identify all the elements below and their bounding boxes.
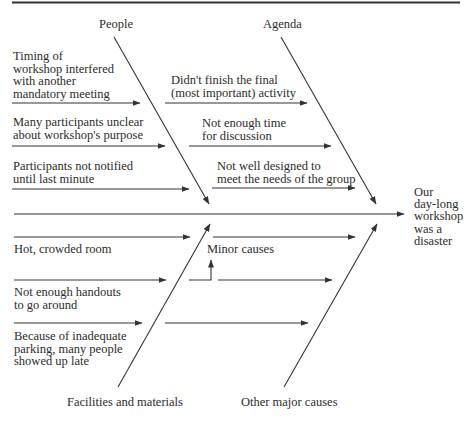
- people-cause-2: Many participants unclear about workshop…: [13, 116, 144, 141]
- category-label-facilities: Facilities and materials: [67, 396, 183, 409]
- category-label-other: Other major causes: [241, 396, 338, 409]
- other-causes-bone: [284, 224, 377, 387]
- facilities-cause-2: Not enough handouts to go around: [14, 286, 121, 311]
- facilities-bone: [118, 224, 210, 387]
- agenda-cause-2: Not enough time for discussion: [202, 117, 286, 142]
- minor-causes-pointer: [189, 260, 211, 280]
- people-cause-1: Timing of workshop interfered with anoth…: [13, 50, 114, 100]
- category-label-agenda: Agenda: [263, 18, 302, 31]
- facilities-cause-1: Hot, crowded room: [14, 243, 112, 256]
- minor-causes-label: Minor causes: [207, 243, 274, 256]
- facilities-cause-3: Because of inadequate parking, many peop…: [14, 330, 126, 368]
- people-cause-3: Participants not notified until last min…: [13, 160, 133, 185]
- agenda-cause-3: Not well designed to meet the needs of t…: [217, 160, 356, 185]
- effect-label: Our day-long workshop was a disaster: [414, 186, 463, 247]
- category-label-people: People: [99, 18, 133, 31]
- agenda-cause-1: Didn't finish the final (most important)…: [171, 74, 296, 99]
